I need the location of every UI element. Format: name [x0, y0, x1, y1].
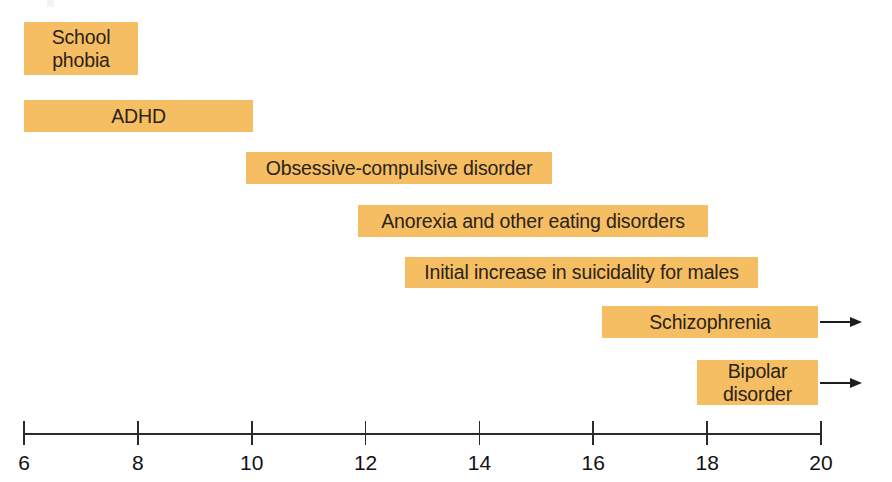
bar-label-schizophrenia: Schizophrenia	[649, 311, 771, 334]
x-axis-tick-16	[592, 421, 594, 445]
x-axis-tick-label-12: 12	[341, 451, 391, 475]
x-axis-tick-8	[137, 421, 139, 445]
bar-bipolar-disorder: Bipolar disorder	[697, 360, 818, 405]
bar-obsessive-compulsive-disorder: Obsessive-compulsive disorder	[246, 152, 552, 184]
continuation-arrow-bipolar-disorder	[820, 382, 862, 384]
x-axis-tick-label-18: 18	[682, 451, 732, 475]
x-axis-tick-label-6: 6	[0, 451, 49, 475]
x-axis-tick-12	[365, 421, 367, 445]
x-axis-line	[24, 433, 822, 435]
bar-label-anorexia-eating-disorders: Anorexia and other eating disorders	[381, 210, 685, 233]
x-axis-tick-label-20: 20	[796, 451, 846, 475]
bar-label-school-phobia: School phobia	[52, 26, 111, 72]
x-axis-tick-10	[251, 421, 253, 445]
scan-artifact	[47, 0, 54, 7]
x-axis-tick-label-10: 10	[227, 451, 277, 475]
continuation-arrow-schizophrenia	[820, 321, 862, 323]
x-axis-tick-14	[479, 421, 481, 445]
age-of-onset-timeline-chart: School phobia ADHD Obsessive-compulsive …	[0, 0, 892, 482]
x-axis-tick-label-16: 16	[568, 451, 618, 475]
bar-label-bipolar-disorder: Bipolar disorder	[723, 360, 792, 406]
x-axis-tick-label-14: 14	[454, 451, 504, 475]
bar-schizophrenia: Schizophrenia	[602, 306, 818, 338]
bar-label-suicidality-males: Initial increase in suicidality for male…	[424, 261, 739, 284]
arrow-shaft	[820, 382, 851, 384]
bar-suicidality-males: Initial increase in suicidality for male…	[405, 257, 758, 288]
x-axis-tick-6	[23, 421, 25, 445]
bar-school-phobia: School phobia	[24, 22, 138, 75]
arrow-shaft	[820, 321, 851, 323]
x-axis-tick-18	[706, 421, 708, 445]
x-axis-tick-20	[820, 421, 822, 445]
bar-adhd: ADHD	[24, 100, 253, 132]
arrow-head-icon	[850, 378, 862, 388]
arrow-head-icon	[850, 317, 862, 327]
bar-label-adhd: ADHD	[111, 105, 166, 128]
bar-anorexia-eating-disorders: Anorexia and other eating disorders	[358, 205, 708, 237]
x-axis-tick-label-8: 8	[113, 451, 163, 475]
bar-label-obsessive-compulsive-disorder: Obsessive-compulsive disorder	[266, 157, 533, 180]
